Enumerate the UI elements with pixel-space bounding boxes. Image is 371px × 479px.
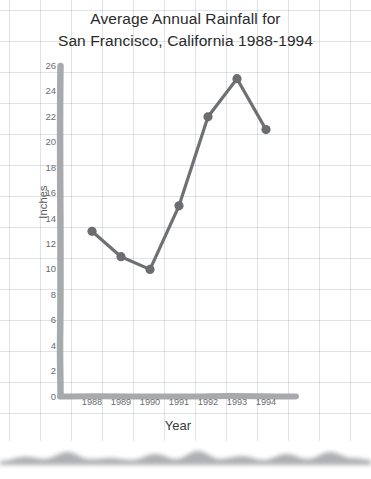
data-point-1991 (174, 201, 183, 210)
data-point-1993 (232, 74, 241, 83)
chart-svg (0, 0, 371, 447)
x-axis-tick-1989: 1989 (106, 397, 136, 407)
data-point-1992 (203, 112, 212, 121)
data-line (92, 79, 266, 270)
data-point-1990 (145, 265, 154, 274)
data-point-1989 (116, 252, 125, 261)
y-axis-title: Inches (37, 172, 49, 232)
x-axis-tick-1988: 1988 (77, 397, 107, 407)
x-axis-tick-1990: 1990 (135, 397, 165, 407)
data-point-1988 (87, 227, 96, 236)
x-axis-tick-1992: 1992 (193, 397, 223, 407)
torn-paper-edge (0, 441, 371, 479)
data-point-1994 (261, 125, 270, 134)
x-axis-title: Year (60, 418, 296, 433)
x-axis-tick-1993: 1993 (222, 397, 252, 407)
chart-plot-area: 26242220181614121086420 Inches 198819891… (0, 0, 371, 447)
torn-edge-shadow (0, 449, 371, 465)
x-axis-tick-1994: 1994 (251, 397, 281, 407)
data-point-markers (87, 74, 270, 274)
x-axis-tick-1991: 1991 (164, 397, 194, 407)
x-axis-tick-labels: 1988198919901991199219931994 (0, 397, 371, 411)
